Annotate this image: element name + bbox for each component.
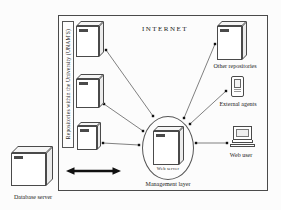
server-label-chip	[156, 134, 165, 137]
link-repo3-webserver	[103, 143, 139, 145]
repository-server-icon-3	[77, 122, 101, 150]
keyboard	[230, 144, 255, 147]
university-repositories-label: Repositories within the University (UNAM…	[65, 29, 71, 139]
other-repositories-label: Other repositories	[204, 63, 266, 70]
database-server-label: Database server	[4, 194, 62, 201]
link-repo2-webserver	[104, 104, 143, 131]
server-label-chip	[220, 29, 229, 32]
repository-server-icon-1	[76, 21, 104, 57]
server-label-chip	[79, 29, 88, 32]
diagram-canvas: INTERNET Repositories within the Univers…	[0, 0, 281, 210]
desktop-computer-icon	[229, 126, 255, 149]
repository-server-icon-2	[76, 74, 104, 108]
web-server-label: Web server	[147, 167, 189, 172]
web-server-icon	[153, 126, 184, 165]
handheld-device-icon	[231, 76, 244, 97]
server-label-chip	[80, 129, 89, 132]
server-label-chip	[14, 156, 23, 159]
internet-label: INTERNET	[130, 26, 200, 34]
link-repo1-webserver	[106, 50, 153, 116]
other-repositories-icon	[217, 21, 247, 60]
monitor	[233, 126, 252, 140]
server-label-chip	[79, 82, 88, 85]
university-repositories-box: Repositories within the University (UNAM…	[62, 21, 74, 148]
management-layer-label: Management layer	[133, 181, 203, 188]
double-arrow-icon	[66, 167, 121, 175]
database-server-icon	[11, 146, 53, 186]
handheld-screen	[234, 79, 241, 88]
external-agents-label: External agents	[209, 101, 267, 108]
monitor-base	[232, 140, 253, 143]
web-user-label: Web user	[218, 152, 264, 159]
handheld-keypad	[234, 89, 241, 93]
